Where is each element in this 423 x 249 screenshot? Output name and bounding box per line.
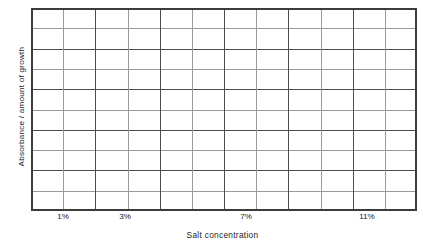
x-axis-tick-label: 1% xyxy=(43,212,83,221)
blank-graph-figure: Absorbance / amount of growth 1%3%7%11% … xyxy=(0,0,423,249)
x-axis-tick-label-group: 1%3%7%11% xyxy=(0,212,423,226)
x-axis-tick-label: 11% xyxy=(347,212,387,221)
plot-area xyxy=(31,8,417,211)
y-axis-title: Absorbance / amount of growth xyxy=(17,14,26,200)
x-axis-title: Salt concentration xyxy=(0,230,423,240)
x-axis-title-text: Salt concentration xyxy=(165,230,259,240)
x-axis-tick-label: 7% xyxy=(226,212,266,221)
x-axis-tick-label: 3% xyxy=(105,212,145,221)
grid-lines xyxy=(31,8,417,211)
